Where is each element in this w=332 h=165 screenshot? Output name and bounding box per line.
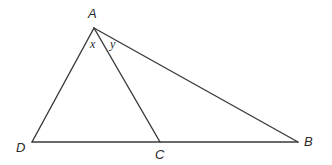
segment-AB bbox=[94, 28, 298, 142]
vertex-labels: A D C B bbox=[16, 6, 313, 162]
vertex-label-D: D bbox=[16, 140, 25, 155]
vertex-label-B: B bbox=[304, 134, 313, 149]
angle-label-x: x bbox=[89, 37, 96, 51]
triangle-edges bbox=[32, 28, 298, 142]
angle-label-y: y bbox=[109, 37, 116, 51]
segment-AD bbox=[32, 28, 94, 142]
vertex-label-C: C bbox=[155, 147, 165, 162]
geometry-diagram: A D C B x y bbox=[0, 0, 332, 165]
segment-AC bbox=[94, 28, 160, 142]
vertex-label-A: A bbox=[87, 6, 97, 21]
